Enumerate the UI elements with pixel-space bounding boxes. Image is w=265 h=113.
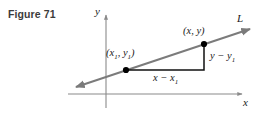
rise-segment-label: y − y1 bbox=[210, 51, 235, 64]
point-x1-y1-label: (x1, y1) bbox=[106, 48, 135, 61]
point-x-y-dot bbox=[201, 41, 207, 47]
y-axis-label: y bbox=[95, 6, 100, 17]
run-segment-label: x − x1 bbox=[153, 73, 178, 86]
point-x-y-label: (x, y) bbox=[183, 26, 205, 37]
figure-container: Figure 71 y x L (x, y) (x1, y1) x − x1 y… bbox=[0, 0, 265, 113]
x-axis-label: x bbox=[243, 97, 248, 108]
line-l-label: L bbox=[237, 13, 243, 24]
point-x1-y1-dot bbox=[123, 67, 129, 73]
